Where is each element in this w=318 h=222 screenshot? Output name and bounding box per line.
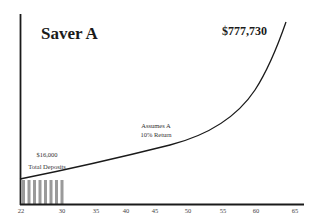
x-tick-label: 60: [253, 207, 260, 214]
deposit-bar: [50, 180, 53, 204]
chart-title: Saver A: [41, 24, 98, 44]
return-line-1: Assumes A: [136, 121, 176, 130]
x-tick-label: 35: [93, 207, 100, 214]
deposit-bar: [33, 180, 36, 204]
deposits-annotation: $16,000 Total Deposits: [22, 150, 72, 171]
x-tick-label: 55: [220, 207, 227, 214]
deposits-amount: $16,000: [22, 150, 72, 159]
final-value-label: $777,730: [222, 24, 267, 39]
deposit-bar: [44, 180, 47, 204]
deposit-bar: [55, 180, 58, 204]
x-tick-label: 30: [59, 207, 66, 214]
deposit-bars: [22, 180, 64, 204]
return-assumption-annotation: Assumes A 10% Return: [136, 121, 176, 139]
deposit-bar: [28, 180, 31, 204]
x-tick-label: 40: [123, 207, 130, 214]
x-tick-label: 45: [152, 207, 159, 214]
x-tick-label: 22: [18, 207, 25, 214]
deposits-label: Total Deposits: [22, 162, 72, 171]
x-tick-label: 50: [185, 207, 192, 214]
chart-container: Saver A $777,730 Assumes A 10% Return $1…: [0, 0, 318, 222]
deposit-bar: [22, 180, 25, 204]
x-tick-label: 65: [292, 207, 299, 214]
return-line-2: 10% Return: [136, 130, 176, 139]
deposit-bar: [61, 180, 64, 204]
deposit-bar: [39, 180, 42, 204]
